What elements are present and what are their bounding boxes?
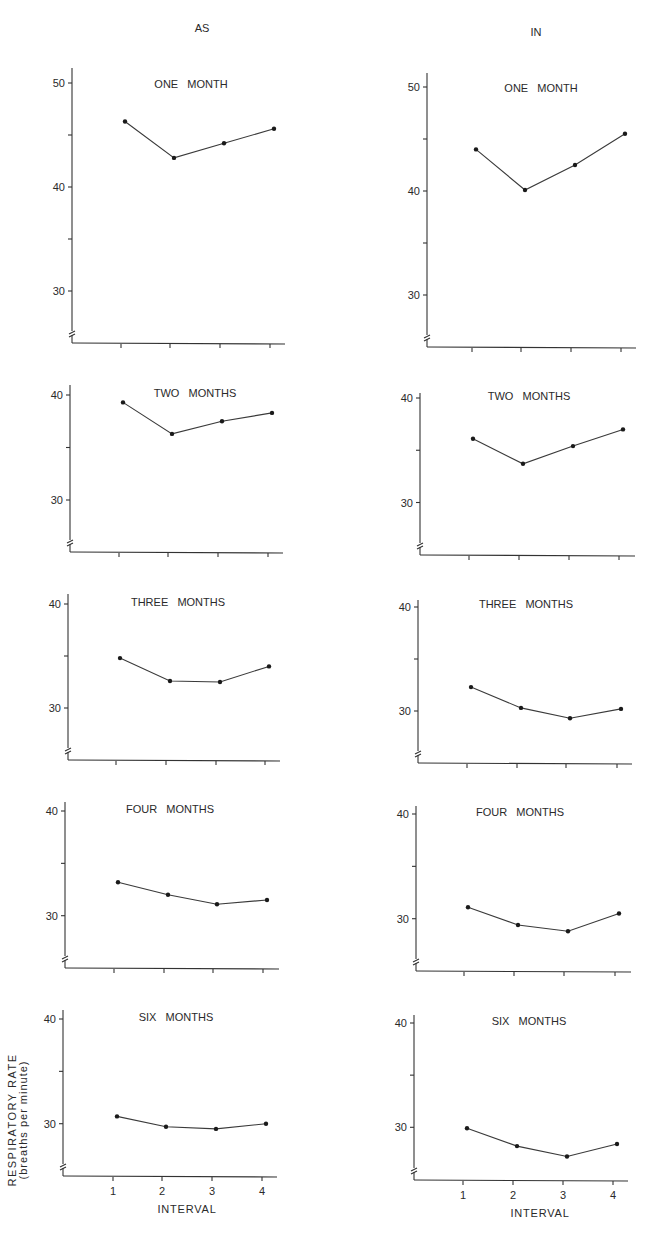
data-line (117, 1116, 266, 1129)
panel-title: FOUR MONTHS (476, 806, 564, 818)
y-tick-label: 30 (395, 1121, 407, 1133)
x-axis-label: INTERVAL (510, 1207, 569, 1219)
panel-title: ONE MONTH (504, 82, 577, 94)
axis-break-mark (67, 540, 73, 543)
x-axis-line (418, 763, 632, 764)
data-point (118, 656, 122, 660)
data-point (621, 427, 625, 431)
y-axis-label-line2: (breaths per minute) (17, 1060, 29, 1179)
data-line (473, 429, 623, 463)
data-point (615, 1142, 619, 1146)
panel-in-three-months: 3040THREE MONTHS (399, 598, 632, 768)
x-tick-label: 4 (259, 1185, 265, 1197)
data-point (116, 880, 120, 884)
data-point (565, 1154, 569, 1158)
y-tick-label: 30 (44, 1118, 56, 1130)
panel-in-six-months: 30401234INTERVALSIX MONTHS (395, 1015, 628, 1219)
data-point (469, 685, 473, 689)
x-tick-label: 3 (209, 1185, 215, 1197)
y-tick-label: 40 (399, 601, 411, 613)
y-tick-label: 40 (397, 808, 409, 820)
x-tick-label: 2 (159, 1185, 165, 1197)
data-point (571, 444, 575, 448)
data-point (168, 679, 172, 683)
data-point (523, 188, 527, 192)
data-line (468, 907, 619, 931)
axis-break-mark (411, 1168, 417, 1171)
data-point (214, 1127, 218, 1131)
x-tick-label: 1 (460, 1189, 466, 1201)
data-point (164, 1125, 168, 1129)
panels-container: 304050ONE MONTH304050ONE MONTH3040TWO MO… (44, 68, 636, 1219)
panel-title: TWO MONTHS (488, 390, 571, 402)
x-axis-line (72, 343, 285, 344)
x-tick-label: 1 (110, 1185, 116, 1197)
data-point (220, 419, 224, 423)
y-tick-label: 40 (51, 389, 63, 401)
panel-as-three-months: 3040THREE MONTHS (49, 594, 280, 765)
axis-break-mark (415, 751, 421, 754)
data-point (270, 411, 274, 415)
data-point (568, 716, 572, 720)
x-axis-line (70, 552, 283, 553)
y-tick-label: 40 (395, 1017, 407, 1029)
data-line (123, 402, 272, 434)
y-tick-label: 40 (49, 598, 61, 610)
data-point (267, 664, 271, 668)
panel-as-six-months: 30401234INTERVALSIX MONTHS (44, 1010, 277, 1215)
axis-break-mark (417, 543, 423, 546)
data-point (170, 432, 174, 436)
data-point (516, 923, 520, 927)
data-point (218, 680, 222, 684)
data-point (521, 462, 525, 466)
axis-break-mark (65, 748, 71, 751)
axis-break-mark (60, 1164, 66, 1167)
y-tick-label: 50 (408, 81, 420, 93)
data-line (467, 1128, 617, 1156)
data-line (471, 687, 621, 718)
data-point (466, 905, 470, 909)
axis-break-mark (69, 331, 75, 334)
data-point (617, 911, 621, 915)
y-tick-label: 40 (53, 181, 65, 193)
data-point (123, 119, 127, 123)
y-tick-label: 50 (53, 77, 65, 89)
x-axis-line (416, 971, 631, 972)
y-tick-label: 30 (49, 702, 61, 714)
axis-break-mark (424, 335, 430, 338)
data-line (120, 658, 269, 682)
data-point (515, 1144, 519, 1148)
panel-title: SIX MONTHS (139, 1011, 214, 1023)
x-axis-line (420, 555, 635, 556)
x-axis-line (427, 347, 636, 348)
x-tick-label: 3 (560, 1189, 566, 1201)
x-axis-line (65, 968, 279, 969)
x-axis-line (414, 1180, 628, 1181)
panel-title: THREE MONTHS (131, 596, 225, 608)
data-point (474, 147, 478, 151)
data-point (172, 156, 176, 160)
column-heading-in: IN (531, 26, 542, 38)
data-point (471, 437, 475, 441)
x-axis-line (68, 760, 280, 761)
data-point (566, 929, 570, 933)
data-line (125, 122, 274, 158)
panel-as-four-months: 3040FOUR MONTHS (46, 802, 279, 973)
y-tick-label: 30 (401, 497, 413, 509)
data-point (519, 706, 523, 710)
panel-in-one-month: 304050ONE MONTH (408, 73, 636, 352)
respiratory-rate-figure: AS IN RESPIRATORY RATE (breaths per minu… (0, 0, 657, 1243)
data-point (121, 400, 125, 404)
panel-in-four-months: 3040FOUR MONTHS (397, 806, 631, 976)
y-tick-label: 30 (399, 705, 411, 717)
y-tick-label: 40 (408, 185, 420, 197)
x-tick-label: 4 (610, 1189, 616, 1201)
data-point (272, 127, 276, 131)
y-tick-label: 30 (397, 913, 409, 925)
y-tick-label: 30 (46, 910, 58, 922)
axis-break-mark (62, 956, 68, 959)
panel-as-two-months: 3040TWO MONTHS (51, 385, 283, 557)
data-point (215, 902, 219, 906)
y-tick-label: 30 (53, 285, 65, 297)
panel-title: FOUR MONTHS (126, 803, 214, 815)
